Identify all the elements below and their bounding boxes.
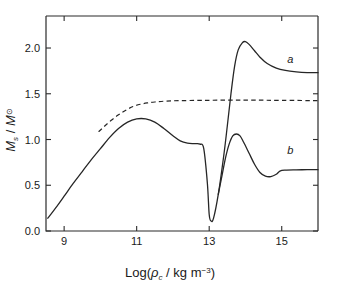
curve-label-a: a	[287, 53, 293, 65]
plot-canvas: 9111315 0.00.51.01.52.0 a b Log(ρc / kg …	[0, 0, 340, 286]
curve-b	[218, 134, 318, 194]
x-tick-label: 15	[276, 235, 288, 247]
x-axis-ticks	[64, 16, 282, 231]
chart-figure: 9111315 0.00.51.01.52.0 a b Log(ρc / kg …	[0, 0, 340, 286]
curve-label-b: b	[287, 144, 293, 156]
x-tick-label: 11	[131, 235, 142, 247]
y-tick-label: 0.0	[25, 225, 40, 237]
axes-frame	[46, 16, 318, 231]
data-series-group	[48, 41, 318, 221]
y-axis-tick-labels: 0.00.51.01.52.0	[25, 42, 40, 237]
frame-border	[46, 16, 318, 231]
x-tick-label: 13	[203, 235, 215, 247]
curve-a	[48, 41, 318, 221]
x-axis-tick-labels: 9111315	[61, 235, 288, 247]
y-axis-ticks	[46, 48, 318, 231]
y-tick-label: 1.0	[25, 134, 40, 146]
curve-newtonian-limit	[99, 100, 318, 132]
y-tick-label: 2.0	[25, 42, 40, 54]
y-axis-title: Ms / M⊙	[3, 108, 20, 152]
x-axis-title: Log(ρc / kg m−3)	[125, 265, 215, 282]
y-tick-label: 1.5	[25, 88, 40, 100]
y-tick-label: 0.5	[25, 179, 40, 191]
x-tick-label: 9	[61, 235, 67, 247]
